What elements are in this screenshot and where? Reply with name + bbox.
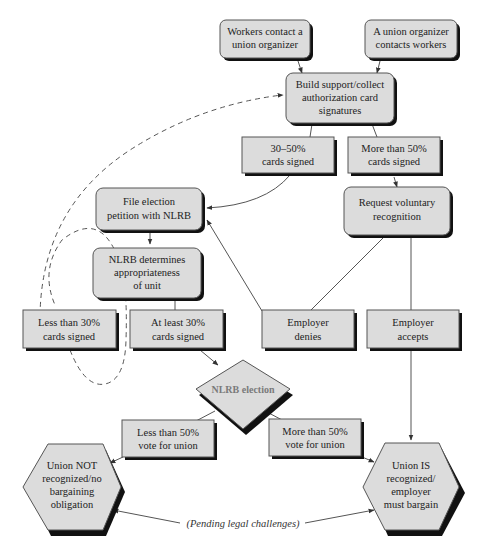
node-text: More than 50% xyxy=(282,426,348,437)
node-text: recognized/no xyxy=(42,473,101,484)
node-text: 30–50% xyxy=(271,143,306,154)
node-text: NLRB election xyxy=(211,384,274,395)
edge-request-to-denies xyxy=(310,237,384,311)
node-text: employer xyxy=(391,486,431,497)
edge-denies-to-petition xyxy=(207,220,262,311)
node-text: cards signed xyxy=(152,331,205,342)
node-employer-denies: Employer denies xyxy=(262,310,357,351)
node-text: appropriateness xyxy=(114,267,180,278)
edge-pending-to-union-not xyxy=(113,510,180,523)
node-more-50-vote: More than 50% vote for union xyxy=(269,419,364,459)
node-text: vote for union xyxy=(285,439,345,450)
node-text: Request voluntary xyxy=(359,197,436,208)
node-text: File election xyxy=(123,196,176,207)
node-file-petition: File election petition with NLRB xyxy=(96,188,205,233)
node-union-is: Union IS recognized/ employer must barga… xyxy=(363,443,465,536)
node-text: recognition xyxy=(373,211,422,222)
node-text: authorization card xyxy=(302,92,379,103)
node-request-voluntary: Request voluntary recognition xyxy=(344,187,453,238)
node-text: denies xyxy=(295,331,322,342)
node-nlrb-determines: NLRB determines appropriateness of unit xyxy=(93,248,204,301)
node-text: Workers contact a xyxy=(227,26,303,37)
node-cards-30-50: 30–50% cards signed xyxy=(242,137,337,176)
node-text: union organizer xyxy=(232,39,298,50)
node-cards-over-50: More than 50% cards signed xyxy=(348,137,443,176)
node-build-support: Build support/collect authorization card… xyxy=(286,73,397,126)
node-less-30: Less than 30% cards signed xyxy=(23,310,119,351)
node-text: cards signed xyxy=(368,156,421,167)
node-text: must bargain xyxy=(384,499,439,510)
node-text: Employer xyxy=(392,317,434,328)
node-at-least-30: At least 30% cards signed xyxy=(130,310,226,351)
node-text: Union NOT xyxy=(47,460,98,471)
edge-over-50-to-request xyxy=(394,177,397,187)
node-text: contacts workers xyxy=(376,39,447,50)
edge-less-50-to-union-not xyxy=(110,457,123,463)
node-text: cards signed xyxy=(262,156,315,167)
edge-pending-to-union-is xyxy=(305,510,374,523)
node-text: obligation xyxy=(51,499,94,510)
node-text: vote for union xyxy=(138,440,198,451)
node-text: At least 30% xyxy=(151,317,205,328)
union-organizing-flowchart: Workers contact a union organizer A unio… xyxy=(0,0,484,558)
node-text: Employer xyxy=(287,317,329,328)
node-text: NLRB determines xyxy=(109,254,186,265)
edge-workers-to-build xyxy=(298,61,302,73)
edge-at-least-30-to-election xyxy=(200,350,218,365)
node-text: A union organizer xyxy=(373,26,449,37)
node-text: More than 50% xyxy=(361,143,427,154)
node-text: recognized/ xyxy=(387,473,436,484)
edge-30-50-to-petition xyxy=(207,175,290,208)
node-text: accepts xyxy=(398,331,429,342)
node-workers-contact: Workers contact a union organizer xyxy=(220,20,313,61)
node-text: bargaining xyxy=(50,486,95,497)
node-less-50-vote: Less than 50% vote for union xyxy=(122,420,217,460)
pending-legal-challenges-label: (Pending legal challenges) xyxy=(186,518,300,530)
node-text: petition with NLRB xyxy=(107,210,191,221)
node-text: Build support/collect xyxy=(296,79,384,90)
node-text: of unit xyxy=(133,280,161,291)
node-text: Less than 50% xyxy=(137,427,199,438)
edge-organizer-to-build xyxy=(377,61,380,73)
node-employer-accepts: Employer accepts xyxy=(367,310,462,351)
node-text: signatures xyxy=(319,105,362,116)
node-text: cards signed xyxy=(43,331,96,342)
node-text: Union IS xyxy=(392,460,430,471)
node-organizer-contacts: A union organizer contacts workers xyxy=(365,20,460,61)
node-text: Less than 30% xyxy=(38,317,100,328)
node-union-not: Union NOT recognized/no bargaining oblig… xyxy=(23,444,125,536)
